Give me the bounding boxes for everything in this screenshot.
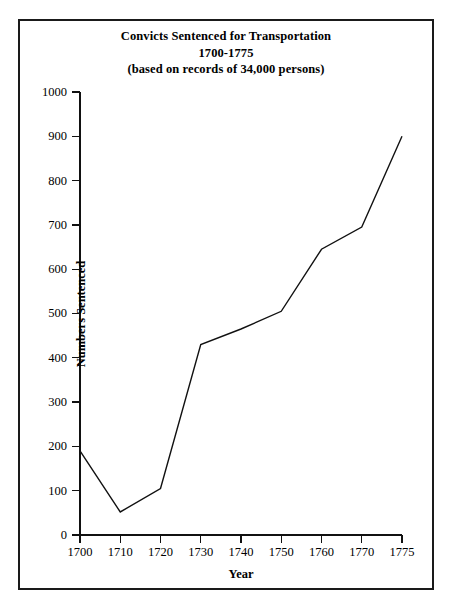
x-tick-mark <box>401 535 402 543</box>
y-tick-mark <box>72 313 80 314</box>
chart-title-line-1: Convicts Sentenced for Transportation <box>20 28 432 45</box>
y-tick-mark <box>72 446 80 447</box>
y-tick: 500 <box>72 313 80 314</box>
y-tick: 700 <box>72 224 80 225</box>
y-tick: 200 <box>72 446 80 447</box>
y-tick-label: 200 <box>48 439 67 454</box>
x-tick-label: 1720 <box>148 545 173 560</box>
chart-title-line-2: 1700-1775 <box>20 45 432 62</box>
y-tick-mark <box>72 180 80 181</box>
x-tick: 1720 <box>160 535 161 543</box>
x-tick: 1710 <box>120 535 121 543</box>
x-tick-label: 1710 <box>108 545 133 560</box>
x-axis-title: Year <box>80 567 402 582</box>
x-tick-label: 1730 <box>188 545 213 560</box>
y-tick: 100 <box>72 490 80 491</box>
y-tick-label: 400 <box>48 350 67 365</box>
y-tick-label: 700 <box>48 217 67 232</box>
chart-title: Convicts Sentenced for Transportation 17… <box>20 28 432 78</box>
y-tick: 800 <box>72 180 80 181</box>
x-tick: 1700 <box>79 535 80 543</box>
x-tick-label: 1775 <box>389 545 414 560</box>
x-tick-label: 1750 <box>269 545 294 560</box>
x-tick-mark <box>321 535 322 543</box>
chart-title-line-3: (based on records of 34,000 persons) <box>20 61 432 78</box>
y-tick-label: 900 <box>48 129 67 144</box>
y-tick-mark <box>72 357 80 358</box>
y-tick-mark <box>72 224 80 225</box>
x-tick-label: 1770 <box>349 545 374 560</box>
x-tick-mark <box>361 535 362 543</box>
y-tick: 900 <box>72 136 80 137</box>
y-tick-mark <box>72 269 80 270</box>
x-tick: 1775 <box>401 535 402 543</box>
y-tick: 400 <box>72 357 80 358</box>
y-tick-label: 500 <box>48 306 67 321</box>
x-tick: 1730 <box>200 535 201 543</box>
convicts-sentenced-line <box>80 136 402 512</box>
y-tick-mark <box>72 401 80 402</box>
x-tick: 1740 <box>240 535 241 543</box>
x-tick-label: 1760 <box>309 545 334 560</box>
y-tick-mark <box>72 91 80 92</box>
y-tick-mark <box>72 136 80 137</box>
x-tick-label: 1740 <box>228 545 253 560</box>
x-tick-mark <box>120 535 121 543</box>
y-tick: 600 <box>72 269 80 270</box>
figure-frame: Convicts Sentenced for Transportation 17… <box>18 19 434 590</box>
line-series <box>80 92 402 535</box>
y-tick: 1000 <box>72 91 80 92</box>
plot-area: Numbers Sentenced Year 01002003004005006… <box>80 92 402 535</box>
x-tick: 1750 <box>281 535 282 543</box>
x-tick-mark <box>281 535 282 543</box>
y-tick-label: 1000 <box>42 85 67 100</box>
x-tick-mark <box>79 535 80 543</box>
x-tick-mark <box>240 535 241 543</box>
y-tick-mark <box>72 490 80 491</box>
y-tick-label: 300 <box>48 395 67 410</box>
x-tick-mark <box>160 535 161 543</box>
y-tick: 300 <box>72 401 80 402</box>
y-tick-label: 600 <box>48 262 67 277</box>
x-tick: 1770 <box>361 535 362 543</box>
y-tick-label: 0 <box>61 527 67 542</box>
y-tick-label: 800 <box>48 173 67 188</box>
x-tick: 1760 <box>321 535 322 543</box>
y-tick-label: 100 <box>48 483 67 498</box>
x-tick-label: 1700 <box>68 545 93 560</box>
x-tick-mark <box>200 535 201 543</box>
